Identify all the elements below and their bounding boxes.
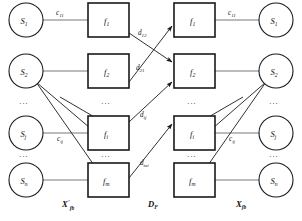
edge-label-c11-right: c11 <box>228 9 236 18</box>
diagram-root: S1 S2 Sj Sn f1 f2 <box>0 0 302 221</box>
ellipsis-col2-row1: ··· <box>101 99 111 108</box>
ellipsis-col3-row2: ··· <box>187 152 197 161</box>
edge-label-cij-left: cij <box>57 135 64 144</box>
group-labels: X'fb DF Xfb <box>61 198 247 210</box>
edge-label-dmi: dmi <box>140 159 149 168</box>
edge-sj-from-f2 <box>213 82 266 128</box>
arrow-d21-f2-to-f1 <box>129 26 172 82</box>
diagram-canvas: S1 S2 Sj Sn f1 f2 <box>0 0 302 221</box>
ellipsis-col2-row2: ··· <box>101 152 111 161</box>
group-label-middle: DF <box>147 199 158 210</box>
node-left-feature-i[interactable] <box>88 116 129 150</box>
arrow-dij-fi-to-f2 <box>129 82 172 122</box>
ellipsis-col1-row1: ··· <box>19 99 29 108</box>
ellipsis-marks: ··· ··· ··· ··· ··· ··· ··· ··· <box>19 99 279 161</box>
ellipsis-col4-row2: ··· <box>269 152 279 161</box>
ellipsis-col1-row2: ··· <box>19 152 29 161</box>
edge-label-d21: d21 <box>136 64 145 73</box>
arrow-d12-f1-to-f2 <box>129 33 172 62</box>
edge-label-c11-left: c11 <box>56 9 64 18</box>
node-right-feature-i[interactable] <box>174 116 215 150</box>
d-edge-labels: d12 d21 dij dmi <box>136 29 149 168</box>
edge-label-d12: d12 <box>138 29 147 38</box>
group-label-left: X'fb <box>61 198 74 210</box>
edge-label-dij: dij <box>140 111 147 120</box>
edge-label-cij-right: cij <box>229 135 236 144</box>
ellipsis-col4-row1: ··· <box>269 99 279 108</box>
arrow-dmi-fm-to-fi <box>129 124 172 178</box>
group-label-right: Xfb <box>235 199 247 210</box>
cross-arrows <box>129 26 172 178</box>
ellipsis-col3-row1: ··· <box>187 99 197 108</box>
